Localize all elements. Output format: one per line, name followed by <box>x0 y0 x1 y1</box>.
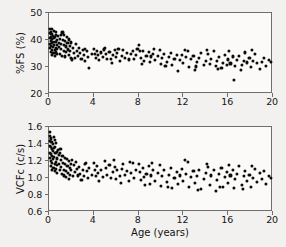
data-point <box>187 185 190 188</box>
data-point <box>152 169 155 172</box>
data-point <box>192 170 195 173</box>
data-point <box>167 173 170 176</box>
data-point <box>243 170 246 173</box>
data-point <box>74 160 77 163</box>
data-point <box>228 164 231 167</box>
data-point <box>80 178 83 181</box>
data-point <box>145 172 148 175</box>
data-point <box>163 168 166 171</box>
data-point <box>131 161 134 164</box>
data-point <box>226 171 229 174</box>
data-point <box>238 165 241 168</box>
x-tick-label: 4 <box>90 214 96 225</box>
data-point <box>116 169 119 172</box>
data-point <box>70 159 73 162</box>
data-point <box>96 165 99 168</box>
data-point <box>166 186 169 189</box>
data-point <box>73 171 76 174</box>
data-point <box>218 172 221 175</box>
data-point <box>248 173 251 176</box>
y-axis-title-bottom: VCFc (c/s) <box>15 143 26 193</box>
data-point <box>232 187 235 190</box>
data-point <box>138 171 141 174</box>
figure-container: 04812162020304050%FS (%)0481216200.60.81… <box>0 0 286 247</box>
data-point <box>111 171 114 174</box>
data-point <box>109 176 112 179</box>
data-point <box>129 171 132 174</box>
data-point <box>214 189 217 192</box>
x-tick-label: 20 <box>266 214 278 225</box>
data-point <box>258 171 261 174</box>
data-point <box>241 188 244 191</box>
data-point <box>171 187 174 190</box>
data-point <box>170 166 173 169</box>
data-point <box>242 175 245 178</box>
data-point <box>212 169 215 172</box>
data-point <box>233 177 236 180</box>
data-point <box>200 188 203 191</box>
x-tick-label: 8 <box>135 214 141 225</box>
data-point <box>150 161 153 164</box>
data-point <box>220 166 223 169</box>
data-point <box>262 170 265 173</box>
data-point <box>178 174 181 177</box>
data-point <box>142 166 145 169</box>
data-point <box>119 182 122 185</box>
data-point <box>54 167 57 170</box>
data-point <box>246 180 249 183</box>
data-point <box>98 179 101 182</box>
data-point <box>67 177 70 180</box>
data-point <box>144 183 147 186</box>
y-tick <box>45 211 49 212</box>
data-point <box>115 177 118 180</box>
data-point <box>173 176 176 179</box>
data-point <box>87 176 90 179</box>
data-point <box>210 174 213 177</box>
data-point <box>265 182 268 185</box>
data-point <box>94 175 97 178</box>
y-tick <box>45 126 49 127</box>
data-point <box>202 177 205 180</box>
data-point <box>209 183 212 186</box>
data-point <box>249 185 252 188</box>
data-point <box>159 184 162 187</box>
data-point <box>139 178 142 181</box>
data-point <box>195 175 198 178</box>
data-point <box>251 176 254 179</box>
data-point <box>148 182 151 185</box>
data-point <box>182 180 185 183</box>
data-point <box>240 183 243 186</box>
data-point <box>81 168 84 171</box>
data-point <box>82 175 85 178</box>
y-tick <box>45 143 49 144</box>
data-point <box>206 165 209 168</box>
x-tick-label: 0 <box>45 214 51 225</box>
data-point <box>165 181 168 184</box>
plot-area-bottom <box>48 126 272 211</box>
y-tick <box>45 194 49 195</box>
x-axis-title: Age (years) <box>131 227 189 238</box>
data-point <box>190 176 193 179</box>
data-point <box>48 131 51 134</box>
data-point <box>88 166 91 169</box>
data-point <box>71 175 74 178</box>
data-point <box>196 188 199 191</box>
data-point <box>72 164 75 167</box>
data-point <box>223 176 226 179</box>
data-point <box>175 171 178 174</box>
data-point <box>112 159 115 162</box>
y-tick <box>45 177 49 178</box>
data-point <box>176 182 179 185</box>
data-point <box>56 171 59 174</box>
y-tick <box>45 160 49 161</box>
x-tick-label: 16 <box>221 214 233 225</box>
data-point <box>55 157 58 160</box>
data-point <box>143 176 146 179</box>
data-point <box>97 171 100 174</box>
data-point <box>215 178 218 181</box>
data-point <box>103 159 106 162</box>
data-point <box>158 164 161 167</box>
data-point <box>161 175 164 178</box>
data-point <box>121 162 124 165</box>
data-point <box>55 142 58 145</box>
